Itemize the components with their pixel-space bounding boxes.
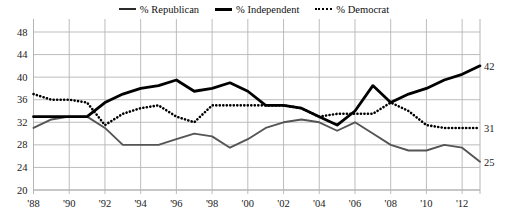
x-axis-tick-label: '98 xyxy=(206,198,218,209)
x-axis-tick-label: '08 xyxy=(384,198,396,209)
data-series-layer xyxy=(34,66,481,162)
x-axis-tick-labels: '88'90'92'94'96'98'00'02'04'06'08'10'12 xyxy=(27,198,468,209)
y-axis-tick-label: 32 xyxy=(17,117,28,128)
end-label-republican: 25 xyxy=(484,157,495,168)
y-axis-tick-label: 40 xyxy=(17,72,28,83)
end-label-democrat: 31 xyxy=(484,123,495,134)
y-axis-tick-label: 44 xyxy=(17,49,28,60)
x-axis-tick-label: '10 xyxy=(420,198,432,209)
x-axis-tick-label: '88 xyxy=(27,198,39,209)
y-axis-tick-label: 28 xyxy=(17,139,28,150)
x-axis-tick-label: '96 xyxy=(170,198,182,209)
x-axis-tick-label: '02 xyxy=(277,198,289,209)
series-line-independent xyxy=(34,66,481,125)
x-axis-tick-label: '94 xyxy=(134,198,147,209)
y-axis-tick-label: 20 xyxy=(17,185,28,196)
end-label-independent: 42 xyxy=(484,61,495,72)
x-axis-tick-label: '00 xyxy=(242,198,254,209)
y-axis-tick-label: 48 xyxy=(17,27,28,38)
series-end-labels: 254231 xyxy=(484,61,495,168)
x-axis-tick-label: '12 xyxy=(456,198,468,209)
x-axis-tick-label: '04 xyxy=(313,198,326,209)
x-axis-tick-label: '06 xyxy=(349,198,361,209)
x-axis-tick-label: '90 xyxy=(63,198,75,209)
x-axis-tick-label: '92 xyxy=(99,198,111,209)
chart-plot-area: 2024283236404448 '88'90'92'94'96'98'00'0… xyxy=(0,0,508,213)
y-axis-tick-label: 36 xyxy=(17,94,28,105)
party-id-line-chart: % Republican % Independent % Democrat 20… xyxy=(0,0,508,213)
y-axis-tick-labels: 2024283236404448 xyxy=(17,27,28,196)
y-axis-tick-label: 24 xyxy=(17,162,28,173)
series-line-republican xyxy=(34,117,481,162)
